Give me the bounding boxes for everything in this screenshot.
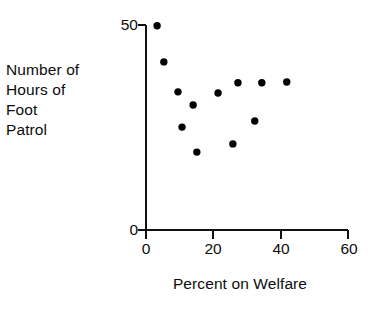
data-point: [174, 88, 181, 95]
data-point: [160, 58, 167, 65]
data-point: [178, 123, 185, 130]
data-point: [153, 22, 160, 29]
scatter-plot-figure: Number of Hours of Foot Patrol 50 0 0 20…: [0, 0, 377, 311]
data-point: [234, 79, 241, 86]
axes: [138, 25, 348, 239]
data-point: [214, 89, 221, 96]
data-point: [258, 79, 265, 86]
data-point: [193, 148, 200, 155]
data-point: [189, 101, 196, 108]
data-point: [251, 117, 258, 124]
data-point: [229, 140, 236, 147]
data-point-group: [153, 22, 290, 156]
plot-area: [0, 0, 377, 311]
data-point: [283, 78, 290, 85]
